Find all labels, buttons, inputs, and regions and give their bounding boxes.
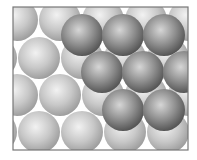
bottom-layer-sphere <box>18 37 60 79</box>
top-layer-sphere <box>102 14 144 56</box>
bottom-layer-sphere <box>190 111 197 153</box>
bottom-layer-sphere <box>0 0 38 41</box>
top-layer-sphere <box>102 89 144 131</box>
bottom-layer-sphere <box>61 111 103 153</box>
bottom-layer-sphere <box>190 37 197 79</box>
bottom-layer-sphere <box>18 111 60 153</box>
top-layer-sphere <box>143 89 185 131</box>
bottom-layer-sphere <box>0 74 38 116</box>
bottom-layer-sphere <box>0 111 17 153</box>
top-layer-sphere <box>122 51 164 93</box>
top-layer-sphere <box>81 51 123 93</box>
bottom-layer-sphere <box>39 74 81 116</box>
sphere-packing-diagram <box>0 0 197 160</box>
top-layer-sphere <box>143 14 185 56</box>
top-layer-sphere <box>61 14 103 56</box>
bottom-layer-sphere <box>0 37 17 79</box>
